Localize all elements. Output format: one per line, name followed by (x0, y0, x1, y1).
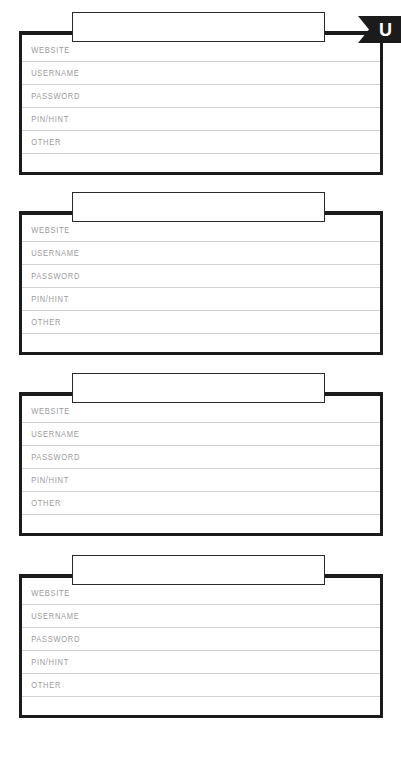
field-label: OTHER (22, 499, 61, 508)
field-row-blank[interactable] (22, 334, 380, 352)
card-body: WEBSITE USERNAME PASSWORD PIN/HINT OTHER (19, 575, 383, 718)
field-row-password[interactable]: PASSWORD (22, 446, 380, 469)
field-row-blank[interactable] (22, 697, 380, 715)
field-rows: WEBSITE USERNAME PASSWORD PIN/HINT OTHER (22, 578, 380, 715)
card-body: WEBSITE USERNAME PASSWORD PIN/HINT OTHER (19, 212, 383, 355)
entry-title-plate[interactable] (72, 555, 325, 585)
field-row-website[interactable]: WEBSITE (22, 400, 380, 423)
entry-title-plate[interactable] (72, 12, 325, 42)
field-label: OTHER (22, 138, 61, 147)
field-row-password[interactable]: PASSWORD (22, 628, 380, 651)
letter-tab-banner[interactable]: U (358, 16, 401, 43)
entry-title-plate[interactable] (72, 192, 325, 222)
field-row-website[interactable]: WEBSITE (22, 39, 380, 62)
field-label: OTHER (22, 681, 61, 690)
card-body: WEBSITE USERNAME PASSWORD PIN/HINT OTHER (19, 393, 383, 536)
field-row-pin-hint[interactable]: PIN/HINT (22, 469, 380, 492)
field-label: PASSWORD (22, 635, 80, 644)
field-row-username[interactable]: USERNAME (22, 242, 380, 265)
field-rows: WEBSITE USERNAME PASSWORD PIN/HINT OTHER (22, 396, 380, 533)
field-row-other[interactable]: OTHER (22, 131, 380, 154)
field-label: USERNAME (22, 69, 79, 78)
field-label: PASSWORD (22, 453, 80, 462)
field-row-blank[interactable] (22, 154, 380, 172)
field-label: PIN/HINT (22, 476, 69, 485)
field-row-other[interactable]: OTHER (22, 674, 380, 697)
field-row-website[interactable]: WEBSITE (22, 582, 380, 605)
field-rows: WEBSITE USERNAME PASSWORD PIN/HINT OTHER (22, 215, 380, 352)
field-label: WEBSITE (22, 407, 70, 416)
field-label: WEBSITE (22, 226, 70, 235)
field-label: PIN/HINT (22, 295, 69, 304)
card-top-rail-right (322, 574, 383, 577)
field-row-blank[interactable] (22, 515, 380, 533)
card-top-rail-left (19, 211, 75, 214)
field-label: WEBSITE (22, 46, 70, 55)
field-row-password[interactable]: PASSWORD (22, 265, 380, 288)
entry-title-plate[interactable] (72, 373, 325, 403)
field-row-other[interactable]: OTHER (22, 492, 380, 515)
field-label: PASSWORD (22, 272, 80, 281)
card-top-rail-right (322, 211, 383, 214)
field-label: OTHER (22, 318, 61, 327)
card-top-rail-right (322, 392, 383, 395)
field-row-pin-hint[interactable]: PIN/HINT (22, 288, 380, 311)
password-log-page: U WEBSITE USERNAME PASSWORD (0, 0, 401, 758)
field-label: WEBSITE (22, 589, 70, 598)
field-row-website[interactable]: WEBSITE (22, 219, 380, 242)
field-label: PIN/HINT (22, 658, 69, 667)
field-row-other[interactable]: OTHER (22, 311, 380, 334)
field-row-username[interactable]: USERNAME (22, 605, 380, 628)
field-row-pin-hint[interactable]: PIN/HINT (22, 651, 380, 674)
field-label: PIN/HINT (22, 115, 69, 124)
field-label: USERNAME (22, 430, 79, 439)
field-label: USERNAME (22, 612, 79, 621)
field-row-username[interactable]: USERNAME (22, 62, 380, 85)
field-row-password[interactable]: PASSWORD (22, 85, 380, 108)
card-top-rail-left (19, 31, 75, 34)
letter-tab-label: U (358, 16, 401, 43)
field-rows: WEBSITE USERNAME PASSWORD PIN/HINT OTHER (22, 35, 380, 172)
field-row-pin-hint[interactable]: PIN/HINT (22, 108, 380, 131)
card-top-rail-left (19, 392, 75, 395)
field-label: USERNAME (22, 249, 79, 258)
field-row-username[interactable]: USERNAME (22, 423, 380, 446)
field-label: PASSWORD (22, 92, 80, 101)
card-top-rail-left (19, 574, 75, 577)
card-body: WEBSITE USERNAME PASSWORD PIN/HINT OTHER (19, 32, 383, 175)
